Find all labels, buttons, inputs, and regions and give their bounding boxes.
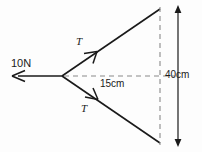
upper-tension-label: T xyxy=(76,36,82,47)
applied-force-label: 10N xyxy=(11,58,31,69)
force-diagram: 10N T T 15cm 40cm xyxy=(0,0,202,152)
vertical-dimension-arrowhead-bottom xyxy=(175,139,182,147)
lower-tension-label: T xyxy=(81,103,87,114)
horizontal-dimension-label: 15cm xyxy=(100,79,124,89)
vertical-dimension-label: 40cm xyxy=(165,70,189,80)
vertical-dimension-arrowhead-top xyxy=(175,5,182,13)
